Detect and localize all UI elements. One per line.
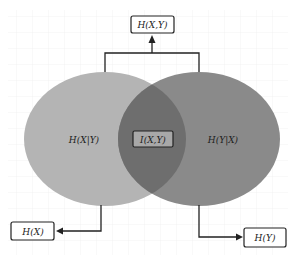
- entropy-y-label: H(Y): [254, 233, 276, 243]
- mutual-info-label: I(X,Y): [139, 135, 166, 145]
- joint-entropy-label: H(X,Y): [136, 20, 168, 30]
- entropy-venn-diagram: H(X,Y) H(X|Y) I(X,Y) H(Y|X) H(X) H(Y): [0, 0, 294, 259]
- entropy-x-label: H(X): [21, 227, 44, 237]
- cond-y-given-x-label: H(Y|X): [207, 135, 239, 146]
- cond-x-given-y-label: H(X|Y): [68, 135, 100, 146]
